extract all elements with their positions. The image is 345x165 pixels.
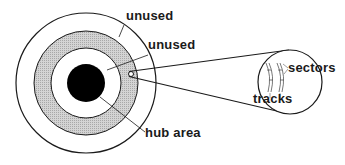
hub-area	[67, 64, 105, 102]
label-tracks: tracks	[253, 92, 293, 105]
label-hub-area: hub area	[145, 126, 201, 139]
label-outer-unused: unused	[126, 9, 173, 22]
zoom-source-circle	[129, 72, 134, 77]
label-inner-unused: unused	[148, 38, 195, 51]
label-sectors: sectors	[288, 61, 336, 74]
disk-diagram-graphic	[0, 0, 345, 165]
